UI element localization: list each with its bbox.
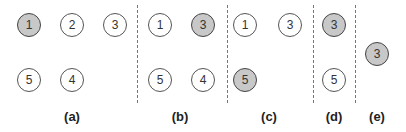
node-5: 5 [148,68,172,92]
panel-label: (c) [249,109,289,124]
panel-label: (b) [160,109,200,124]
node-3: 3 [278,13,302,37]
node-1-highlighted: 1 [17,13,41,37]
node-3-highlighted: 3 [191,13,215,37]
node-1: 1 [233,13,257,37]
diagram: 12354(a)1354(b)135(c)35(d)3(e) [0,0,406,132]
node-1: 1 [148,13,172,37]
panel-divider [137,5,138,103]
node-5-highlighted: 5 [233,68,257,92]
panel-label: (e) [357,109,397,124]
panel-label: (d) [314,109,354,124]
node-4: 4 [191,68,215,92]
panel-divider [313,5,314,103]
node-3-highlighted: 3 [322,13,346,37]
node-3-highlighted: 3 [365,42,389,66]
panel-divider [355,5,356,103]
node-2: 2 [60,13,84,37]
node-4: 4 [60,68,84,92]
panel-divider [227,5,228,103]
node-5: 5 [322,68,346,92]
node-5: 5 [17,68,41,92]
node-3: 3 [103,13,127,37]
panel-label: (a) [52,109,92,124]
